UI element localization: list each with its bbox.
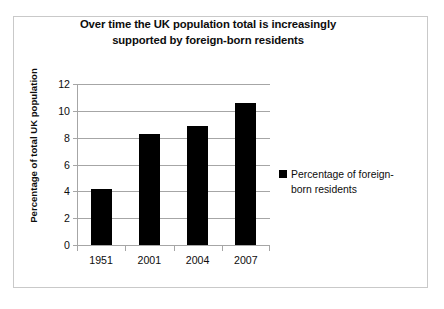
bar-2007[interactable]	[235, 103, 256, 245]
y-tick-label: 4	[64, 185, 70, 197]
x-axis: 1951200120042007	[77, 245, 270, 277]
y-tick-label: 10	[58, 105, 70, 117]
y-tick-mark	[73, 84, 78, 85]
y-tick-label: 2	[64, 212, 70, 224]
legend-label-line-1: Percentage of foreign-	[291, 169, 394, 180]
x-tick-mark	[269, 245, 270, 251]
x-tick-mark	[222, 245, 223, 251]
chart-title: Over time the UK population total is inc…	[30, 16, 386, 48]
x-tick-mark	[77, 245, 78, 251]
y-tick-label: 12	[58, 78, 70, 90]
bar-2001[interactable]	[139, 134, 160, 245]
y-tick-mark	[73, 111, 78, 112]
bar-1951[interactable]	[91, 189, 112, 245]
chart-title-line-2: supported by foreign-born residents	[30, 32, 386, 48]
x-tick-label-2004: 2004	[186, 254, 210, 266]
y-tick-mark	[73, 165, 78, 166]
chart-title-line-1: Over time the UK population total is inc…	[30, 16, 386, 32]
y-tick-mark	[73, 138, 78, 139]
y-tick-label: 0	[64, 239, 70, 251]
y-tick-mark	[73, 218, 78, 219]
plot-area: 024681012	[77, 84, 270, 245]
x-tick-label-2007: 2007	[234, 254, 258, 266]
legend-label-line-2: born residents	[291, 184, 357, 195]
chart-legend: Percentage of foreign- born residents	[279, 167, 427, 197]
x-tick-label-1951: 1951	[89, 254, 113, 266]
y-axis-title: Percentage of total UK population	[28, 51, 39, 241]
chart-canvas: Over time the UK population total is inc…	[0, 0, 444, 309]
bar-2004[interactable]	[187, 126, 208, 245]
legend-label: Percentage of foreign- born residents	[291, 167, 394, 197]
x-tick-mark	[125, 245, 126, 251]
x-tick-label-2001: 2001	[138, 254, 162, 266]
x-tick-mark	[174, 245, 175, 251]
gridline: 12	[77, 84, 270, 85]
y-tick-label: 6	[64, 159, 70, 171]
legend-swatch-icon	[279, 170, 287, 178]
y-tick-label: 8	[64, 132, 70, 144]
y-tick-mark	[73, 191, 78, 192]
